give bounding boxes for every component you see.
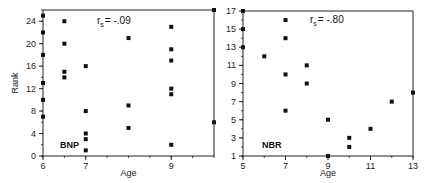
data-point-marker (212, 8, 216, 12)
panel-label: BNP (60, 140, 79, 150)
y-tick-label: 0 (31, 151, 36, 161)
data-point-marker (62, 75, 66, 79)
figure: 04812162024679AgeRankBNPrs= -.09 1357911… (0, 0, 430, 183)
data-point-marker (169, 143, 173, 147)
correlation-annotation: rs= -.80 (310, 14, 344, 27)
y-tick-label: 3 (231, 133, 236, 143)
data-point-marker (41, 14, 45, 18)
data-point-marker (84, 132, 88, 136)
y-tick-label: 17 (226, 6, 236, 16)
data-point-marker (62, 19, 66, 23)
data-point-marker (84, 137, 88, 141)
data-point-marker (41, 53, 45, 57)
data-point-marker (411, 91, 415, 95)
plot-frame (243, 11, 413, 156)
data-point-marker (241, 45, 245, 49)
y-tick-label: 7 (231, 97, 236, 107)
x-axis-title: Age (120, 168, 136, 178)
y-tick-label: 20 (26, 39, 36, 49)
y-tick-label: 4 (31, 129, 36, 139)
data-point-marker (41, 81, 45, 85)
x-tick-label: 6 (40, 161, 45, 171)
x-axis-title: Age (320, 168, 336, 178)
x-tick-label: 7 (283, 161, 288, 171)
data-point-marker (84, 148, 88, 152)
data-point-marker (284, 72, 288, 76)
x-tick-label: 11 (366, 161, 375, 171)
x-tick-label: 7 (83, 161, 88, 171)
data-point-marker (212, 120, 216, 124)
data-point-marker (62, 42, 66, 46)
y-tick-label: 5 (231, 115, 236, 125)
data-point-marker (169, 92, 173, 96)
data-point-marker (305, 82, 309, 86)
y-tick-label: 1 (231, 151, 236, 161)
data-point-marker (305, 63, 309, 67)
bnp-scatter-panel: 04812162024679AgeRankBNPrs= -.09 (10, 8, 216, 178)
data-point-marker (284, 36, 288, 40)
data-point-marker (284, 18, 288, 22)
data-point-marker (347, 145, 351, 149)
y-tick-label: 8 (31, 106, 36, 116)
data-point-marker (347, 136, 351, 140)
y-tick-label: 16 (26, 61, 36, 71)
data-point-marker (127, 36, 131, 40)
data-point-marker (169, 59, 173, 63)
data-point-marker (62, 70, 66, 74)
data-point-marker (326, 154, 330, 158)
data-point-marker (41, 98, 45, 102)
data-point-marker (284, 109, 288, 113)
plot-frame (43, 10, 214, 156)
data-point-marker (84, 109, 88, 113)
panel-label: NBR (262, 140, 282, 150)
data-point-marker (241, 9, 245, 13)
data-point-marker (262, 54, 266, 58)
data-point-marker (127, 103, 131, 107)
correlation-annotation: rs= -.09 (97, 15, 131, 28)
data-point-marker (390, 100, 394, 104)
data-point-marker (241, 27, 245, 31)
data-point-marker (169, 25, 173, 29)
y-tick-label: 15 (226, 24, 236, 34)
x-tick-label: 13 (408, 161, 418, 171)
nbr-scatter-panel: 13579111315175791113AgeNBRrs= -.80 (226, 6, 418, 178)
data-point-marker (169, 47, 173, 51)
y-tick-label: 12 (26, 84, 36, 94)
y-axis-title: Rank (10, 72, 20, 94)
y-tick-label: 11 (227, 60, 236, 70)
data-point-marker (326, 118, 330, 122)
data-point-marker (369, 127, 373, 131)
x-tick-label: 9 (169, 161, 174, 171)
data-point-marker (169, 87, 173, 91)
y-tick-label: 24 (26, 16, 36, 26)
data-point-marker (41, 30, 45, 34)
y-tick-label: 9 (231, 79, 236, 89)
x-tick-label: 5 (240, 161, 245, 171)
data-point-marker (84, 64, 88, 68)
data-point-marker (41, 115, 45, 119)
data-point-marker (127, 126, 131, 130)
y-tick-label: 13 (226, 42, 236, 52)
